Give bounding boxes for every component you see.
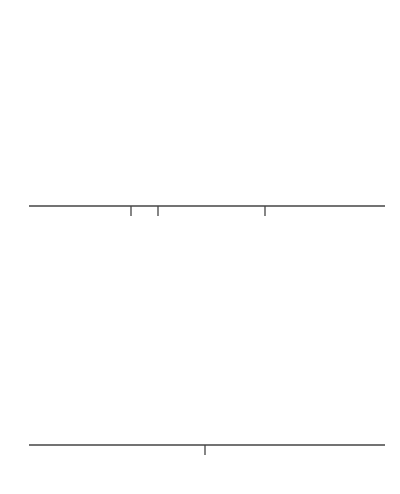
anova-populations-diagram [0,0,400,494]
top-panel [0,0,385,216]
bottom-panel [0,0,385,455]
